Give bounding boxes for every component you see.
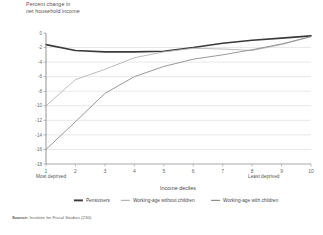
x-axis-tick-label: 10 bbox=[308, 168, 314, 174]
source-text: Institute for Fiscal Studies (230) bbox=[30, 215, 92, 220]
legend-label: Pensioners bbox=[86, 198, 111, 203]
x-axis-tick-label: 4 bbox=[133, 168, 136, 174]
source-note: Source: Institute for Fiscal Studies (23… bbox=[12, 215, 91, 220]
x-axis-tick-label: 5 bbox=[162, 168, 165, 174]
x-axis-tick-label: 6 bbox=[192, 168, 195, 174]
y-axis-tick-label: -16 bbox=[35, 147, 42, 152]
x-axis-tick-label: 9 bbox=[280, 168, 283, 174]
y-axis-tick-label: -2 bbox=[38, 45, 43, 50]
data-series-lines bbox=[46, 36, 311, 150]
x-axis-label: Income deciles bbox=[160, 185, 196, 191]
y-axis-ticks: 0-2-4-6-8-10-12-14-16-18 bbox=[35, 31, 46, 167]
y-axis-tick-label: -14 bbox=[35, 133, 42, 138]
legend-label: Working-age with children bbox=[223, 198, 278, 203]
series-line bbox=[46, 37, 311, 150]
x-axis-ticks: 12345678910 bbox=[45, 164, 314, 174]
x-axis-tick-label: 3 bbox=[103, 168, 106, 174]
x-axis-left-note: Most deprived bbox=[36, 174, 66, 179]
x-axis-tick-label: 2 bbox=[74, 168, 77, 174]
y-axis-tick-label: -18 bbox=[35, 162, 42, 167]
series-line bbox=[46, 36, 311, 52]
gridlines bbox=[46, 48, 311, 164]
y-axis-tick-label: -8 bbox=[38, 89, 43, 94]
x-axis-tick-label: 7 bbox=[221, 168, 224, 174]
y-axis-tick-label: -6 bbox=[38, 74, 43, 79]
y-axis-tick-label: -12 bbox=[35, 118, 42, 123]
chart-figure: Percent change in net household income 0… bbox=[0, 0, 323, 235]
source-label: Source: bbox=[12, 215, 28, 220]
y-axis-tick-label: -4 bbox=[38, 60, 43, 65]
chart-legend: PensionersWorking-age without childrenWo… bbox=[74, 198, 279, 203]
y-axis-tick-label: 0 bbox=[39, 31, 42, 36]
series-line bbox=[46, 37, 311, 106]
plot-area: 0-2-4-6-8-10-12-14-16-18 12345678910 Mos… bbox=[0, 0, 323, 235]
line-chart-svg: 0-2-4-6-8-10-12-14-16-18 12345678910 Mos… bbox=[0, 0, 323, 235]
legend-label: Working-age without children bbox=[133, 198, 195, 203]
y-axis-tick-label: -10 bbox=[35, 103, 42, 108]
x-axis-right-note: Least deprived bbox=[248, 174, 280, 179]
